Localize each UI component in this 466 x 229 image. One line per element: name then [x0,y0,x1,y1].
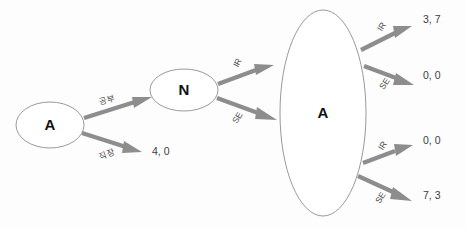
edge-study: 공부 [84,93,152,118]
node-root-a-label: A [45,116,56,133]
node-nature-n-label: N [179,81,190,98]
edge-a-top-se-line [364,66,396,78]
edge-a-bottom-se-label: SE [373,190,388,205]
node-nature-n[interactable]: N [150,69,218,111]
edge-nature-ir-label: IR [231,57,244,69]
payoff-label-bottom-se: 7, 3 [423,189,441,201]
edge-a-bottom-ir: IR [363,139,413,163]
node-infoset-a[interactable]: A [280,10,366,216]
edge-nature-ir-arrowhead [254,64,274,75]
edge-a-bottom-ir-arrowhead [394,144,413,156]
edge-a-bottom-se-line [358,176,393,192]
edge-job-label: 직장 [98,147,116,162]
edge-a-top-ir: IR [361,20,412,50]
edge-a-bottom-se-arrowhead [390,187,412,201]
edge-a-top-ir-arrowhead [393,26,412,38]
edge-a-top-se: SE [364,66,414,91]
edge-a-top-se-label: SE [377,76,392,91]
edge-job-line [82,133,126,147]
payoff-label-job: 4, 0 [152,145,170,157]
diagram-canvas: 공부 직장 IR SE IR SE [0,0,466,229]
edge-a-bottom-ir-label: IR [376,139,389,152]
payoff-label-top-se: 0, 0 [423,69,441,81]
edge-study-label: 공부 [98,93,116,107]
node-infoset-a-label: A [318,104,329,121]
edge-nature-se-arrowhead [255,107,277,120]
edge-nature-se-line [217,98,258,113]
edge-nature-ir: IR [218,57,274,84]
edge-nature-se-label: SE [230,110,244,125]
edge-a-bottom-se: SE [358,176,412,205]
edge-nature-ir-line [218,70,256,84]
edge-a-top-se-arrowhead [393,73,414,85]
edge-study-arrowhead [132,97,152,108]
edge-nature-se: SE [217,98,277,125]
edge-a-top-ir-line [361,33,395,50]
edge-a-bottom-ir-line [363,151,395,163]
edge-job: 직장 [82,133,142,162]
payoff-label-bottom-ir: 0, 0 [423,134,441,146]
edge-job-arrowhead [122,141,142,153]
payoff-label-top-ir: 3, 7 [423,13,441,25]
edge-a-top-ir-label: IR [375,20,388,33]
game-tree-diagram: 공부 직장 IR SE IR SE [0,0,466,229]
node-root-a[interactable]: A [16,102,84,148]
